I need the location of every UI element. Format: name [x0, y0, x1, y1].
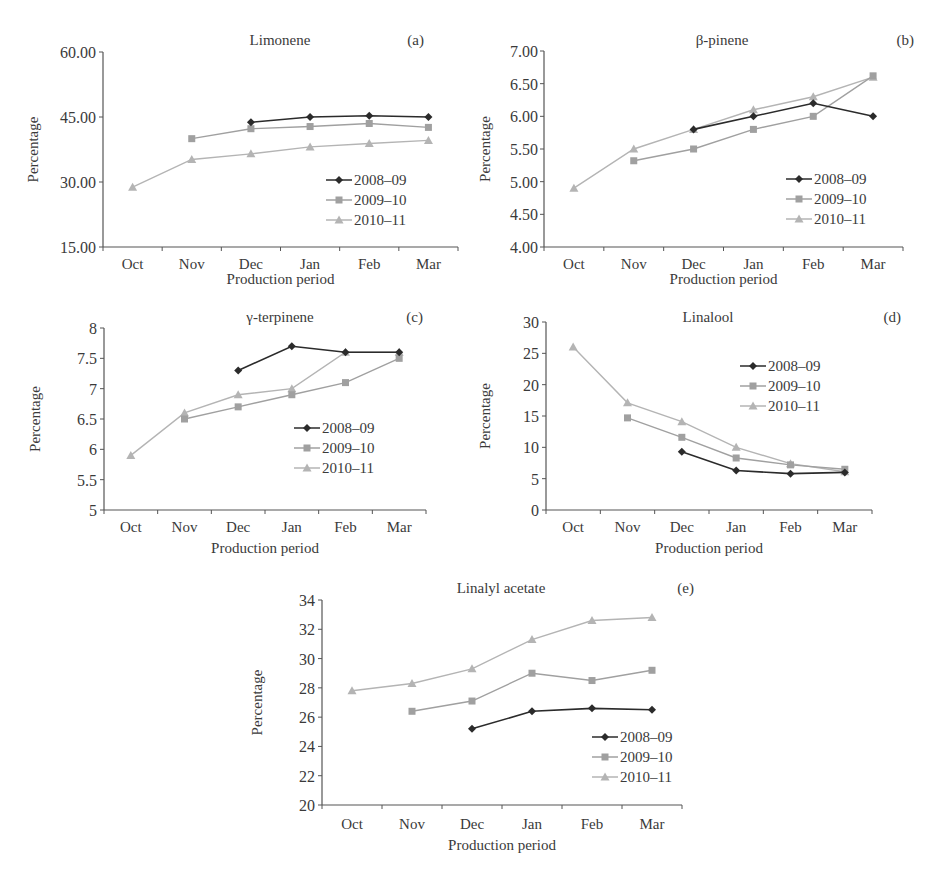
chart-linalool: Linalool(d)051015202530OctNovDecJanFebMa…	[477, 309, 901, 556]
square-marker-icon	[589, 677, 596, 684]
panel-label: (d)	[884, 309, 902, 326]
square-marker-icon	[288, 391, 295, 398]
chart-beta-pinene: β-pinene(b)4.004.505.005.506.006.507.00O…	[477, 32, 914, 287]
y-tick-label: 45.00	[60, 109, 96, 126]
diamond-marker-icon	[468, 725, 476, 733]
x-tick-label: Feb	[581, 816, 604, 832]
x-axis-label: Production period	[670, 271, 778, 287]
figure-canvas: Limonene(a)15.0030.0045.0060.00OctNovDec…	[0, 0, 942, 884]
chart-title: Limonene	[250, 32, 311, 48]
y-tick-label: 10	[523, 439, 539, 456]
x-tick-label: Dec	[682, 256, 706, 272]
legend-entry-label: 2009–10	[322, 440, 375, 456]
legend-entry-label: 2010–11	[322, 460, 374, 476]
triangle-marker-icon	[569, 184, 578, 192]
y-axis-label: Percentage	[25, 116, 41, 182]
legend-diamond-icon	[601, 733, 609, 741]
chart-title: γ-terpinene	[245, 309, 314, 325]
square-marker-icon	[235, 403, 242, 410]
diamond-marker-icon	[234, 366, 242, 374]
x-tick-label: Dec	[226, 519, 250, 535]
legend: 2008–092009–102010–11	[592, 729, 673, 785]
legend: 2008–092009–102010–11	[294, 420, 375, 476]
square-marker-icon	[247, 125, 254, 132]
x-tick-label: Jan	[282, 519, 302, 535]
y-tick-label: 5.5	[77, 472, 97, 489]
x-axis-label: Production period	[211, 540, 319, 556]
diamond-marker-icon	[869, 112, 877, 120]
x-tick-label: Oct	[341, 816, 363, 832]
x-axis-label: Production period	[655, 540, 763, 556]
y-tick-label: 5	[531, 471, 539, 488]
legend-entry-label: 2009–10	[814, 191, 867, 207]
x-tick-label: Jan	[522, 816, 542, 832]
y-tick-label: 30.00	[60, 174, 96, 191]
x-tick-label: Nov	[172, 519, 198, 535]
x-tick-label: Dec	[239, 256, 263, 272]
diamond-marker-icon	[528, 707, 536, 715]
panel-label: (b)	[897, 32, 915, 49]
legend-entry-label: 2010–11	[620, 769, 672, 785]
x-tick-label: Dec	[460, 816, 484, 832]
x-tick-label: Nov	[621, 256, 647, 272]
legend-entry-label: 2009–10	[620, 749, 673, 765]
triangle-marker-icon	[569, 343, 578, 351]
y-tick-label: 20	[299, 797, 315, 814]
legend-square-icon	[796, 196, 803, 203]
series-2010-11	[348, 613, 657, 694]
diamond-marker-icon	[365, 112, 373, 120]
diamond-marker-icon	[247, 118, 255, 126]
y-tick-label: 22	[299, 768, 315, 785]
x-tick-label: Feb	[358, 256, 381, 272]
y-tick-label: 26	[299, 709, 315, 726]
triangle-marker-icon	[732, 443, 741, 451]
square-marker-icon	[624, 414, 631, 421]
diamond-marker-icon	[306, 113, 314, 121]
y-tick-label: 20	[523, 377, 539, 394]
square-marker-icon	[750, 126, 757, 133]
legend: 2008–092009–102010–11	[326, 172, 407, 228]
y-tick-label: 25	[523, 345, 539, 362]
panel-label: (a)	[407, 32, 424, 49]
x-tick-label: Jan	[726, 519, 746, 535]
axes: 4.004.505.005.506.006.507.00OctNovDecJan…	[510, 43, 903, 272]
axes: 15.0030.0045.0060.00OctNovDecJanFebMar	[60, 44, 458, 272]
panel-label: (c)	[406, 309, 423, 326]
x-tick-label: Feb	[802, 256, 825, 272]
y-tick-label: 15.00	[60, 239, 96, 256]
diamond-marker-icon	[424, 113, 432, 121]
y-tick-label: 34	[299, 592, 315, 609]
x-tick-label: Nov	[179, 256, 205, 272]
triangle-marker-icon	[287, 384, 296, 392]
square-marker-icon	[678, 434, 685, 441]
y-tick-label: 7.00	[510, 43, 538, 60]
y-tick-label: 30	[299, 651, 315, 668]
legend-entry-label: 2010–11	[814, 211, 866, 227]
x-tick-label: Oct	[563, 256, 585, 272]
square-marker-icon	[342, 379, 349, 386]
diamond-marker-icon	[588, 704, 596, 712]
y-tick-label: 32	[299, 621, 315, 638]
y-axis-label: Percentage	[477, 116, 493, 182]
x-tick-label: Oct	[122, 256, 144, 272]
x-tick-label: Dec	[670, 519, 694, 535]
panel-label: (e)	[677, 580, 694, 597]
y-tick-label: 5.50	[510, 141, 538, 158]
legend-diamond-icon	[335, 176, 343, 184]
legend-entry-label: 2008–09	[814, 171, 867, 187]
legend-entry-label: 2010–11	[768, 398, 820, 414]
legend-entry-label: 2008–09	[768, 358, 821, 374]
series-2008-09	[690, 99, 878, 133]
square-marker-icon	[181, 416, 188, 423]
x-tick-label: Oct	[120, 519, 142, 535]
y-tick-label: 6.5	[77, 411, 97, 428]
square-marker-icon	[469, 698, 476, 705]
square-marker-icon	[649, 667, 656, 674]
square-marker-icon	[366, 120, 373, 127]
diamond-marker-icon	[749, 112, 757, 120]
square-marker-icon	[870, 72, 877, 79]
chart-linalyl-acetate: Linalyl acetate(e)2022242628303234OctNov…	[249, 580, 694, 853]
y-tick-label: 5.00	[510, 174, 538, 191]
square-marker-icon	[787, 461, 794, 468]
legend-entry-label: 2008–09	[620, 729, 673, 745]
